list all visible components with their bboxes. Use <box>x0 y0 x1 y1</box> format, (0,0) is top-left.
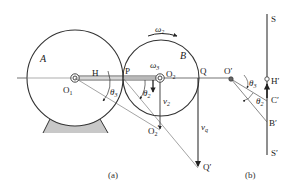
label-o2: O2 <box>166 69 176 80</box>
mechanism-diagram: A B O1 H P O2 Q O2′ Q′ ω2 ω3 θ3 θ2 v2 vq… <box>0 0 293 190</box>
theta3-arc-b <box>244 75 248 88</box>
label-s: S <box>271 14 276 24</box>
label-c-prime: C′ <box>271 95 279 105</box>
panel-a: A B O1 H P O2 Q O2′ Q′ ω2 ω3 θ3 θ2 v2 vq… <box>17 24 232 180</box>
label-theta3-b: θ3 <box>249 78 256 89</box>
caption-b: (b) <box>245 170 256 180</box>
panel-b: S S′ O′ H′ C′ B′ θ3 θ2 (b) <box>224 14 279 180</box>
label-wheel-a: A <box>39 53 47 64</box>
label-q-prime: Q′ <box>203 162 211 172</box>
label-p: P <box>125 66 130 76</box>
point-o-prime <box>229 77 233 81</box>
point-h-prime <box>265 77 269 81</box>
label-v2: v2 <box>163 96 170 107</box>
label-theta2-a: θ2 <box>143 88 150 99</box>
label-h-prime: H′ <box>271 76 279 86</box>
caption-a: (a) <box>108 170 118 180</box>
label-h: H <box>92 68 99 78</box>
label-b-prime: B′ <box>269 118 277 128</box>
label-wheel-b: B <box>180 50 186 61</box>
label-o2-prime: O2′ <box>148 123 160 137</box>
label-vq: vq <box>201 122 208 133</box>
label-theta2-b: θ2 <box>256 96 263 107</box>
label-s-prime: S′ <box>271 148 278 158</box>
label-o-prime: O′ <box>224 66 232 76</box>
label-q: Q <box>200 66 207 76</box>
label-omega3: ω3 <box>150 60 159 71</box>
label-omega2: ω2 <box>155 24 164 35</box>
line-p-to-qprime <box>123 78 198 168</box>
